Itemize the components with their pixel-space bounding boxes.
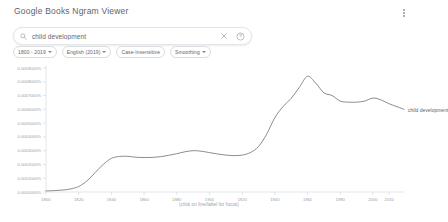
series-line-child-development[interactable] [46, 76, 404, 191]
chevron-down-icon [202, 51, 206, 53]
x-tick-label: 2000 [368, 197, 378, 202]
x-tick-label: 1820 [74, 197, 84, 202]
x-tick-label: 1840 [107, 197, 117, 202]
app-header: Google Books Ngram Viewer [0, 0, 418, 22]
chip-label: 1800 - 2019 [18, 50, 46, 55]
chevron-down-icon [102, 51, 106, 53]
search-bar[interactable]: ? [13, 27, 252, 45]
x-tick-label: 1960 [303, 197, 313, 202]
y-axis-ticks: 0.0009000%0.0008000%0.0007000%0.0006000%… [17, 66, 46, 195]
svg-text:?: ? [239, 34, 242, 39]
chip-case-insensitive[interactable]: Case-Insensitive [116, 46, 165, 58]
page-title: Google Books Ngram Viewer [14, 6, 128, 16]
y-tick-label: 0.0003000% [17, 148, 41, 153]
chip-corpus[interactable]: English (2019) [62, 46, 112, 58]
series-label-child-development[interactable]: child development [408, 107, 448, 113]
x-tick-label: 1920 [238, 197, 248, 202]
ngram-chart[interactable]: 0.0009000%0.0008000%0.0007000%0.0006000%… [0, 62, 418, 222]
chart-focus-note: (click on line/label for focus) [0, 202, 418, 207]
x-tick-label: 1940 [270, 197, 280, 202]
y-tick-label: 0.0004000% [17, 134, 41, 139]
x-tick-label: 1800 [41, 197, 51, 202]
kebab-dot [403, 12, 405, 14]
chip-label: Case-Insensitive [121, 50, 160, 55]
y-tick-label: 0.0006000% [17, 107, 41, 112]
chip-smoothing[interactable]: Smoothing [170, 46, 211, 58]
x-tick-label: 1860 [139, 197, 149, 202]
y-tick-label: 0.0001000% [17, 176, 41, 181]
chip-label: English (2019) [67, 50, 101, 55]
y-tick-label: 0.0005000% [17, 121, 41, 126]
chevron-down-icon [48, 51, 52, 53]
y-tick-label: 0.0008000% [17, 79, 41, 84]
y-tick-label: 0.0007000% [17, 93, 41, 98]
chip-year-range[interactable]: 1800 - 2019 [13, 46, 57, 58]
x-axis-ticks: 1800182018401860188019001920194019601980… [41, 192, 394, 202]
kebab-menu-icon[interactable] [398, 7, 410, 19]
chart-canvas[interactable]: 0.0009000%0.0008000%0.0007000%0.0006000%… [0, 62, 418, 222]
x-tick-label: 1880 [172, 197, 182, 202]
search-input[interactable] [32, 28, 222, 44]
y-tick-label: 0.0002000% [17, 162, 41, 167]
close-icon[interactable] [220, 32, 228, 40]
kebab-dot [403, 9, 405, 11]
axis-lines [46, 66, 404, 192]
y-tick-label: 0.0000000% [17, 190, 41, 195]
kebab-dot [403, 15, 405, 17]
y-tick-label: 0.0009000% [17, 66, 41, 71]
help-circle-icon[interactable]: ? [236, 32, 245, 41]
search-icon [20, 33, 27, 40]
x-tick-label: 2010 [385, 197, 395, 202]
filter-chip-row: 1800 - 2019 English (2019) Case-Insensit… [13, 47, 211, 58]
x-tick-label: 1900 [205, 197, 215, 202]
chip-label: Smoothing [175, 50, 200, 55]
x-tick-label: 1980 [336, 197, 346, 202]
